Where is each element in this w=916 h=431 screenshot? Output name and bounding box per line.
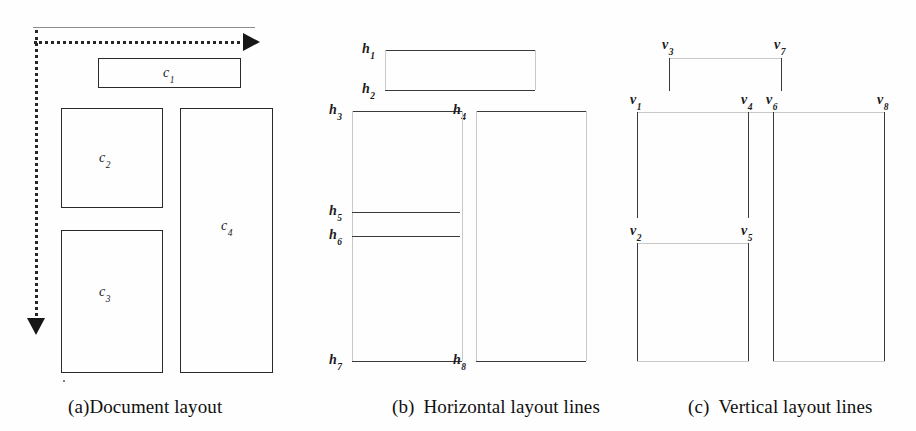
v3-v7-top-guide <box>669 58 781 59</box>
panel-document-layout: c1 c2 c3 c4 <box>0 0 300 431</box>
figure-root: c1 c2 c3 c4 h1 h2 <box>0 0 916 431</box>
caption-c-tag: (c) <box>688 396 709 417</box>
v-line-2 <box>637 243 638 361</box>
caption-b-text: Horizontal layout lines <box>423 396 599 417</box>
h-line-1-label: h1 <box>362 42 375 59</box>
block-c3 <box>61 230 163 373</box>
arrow-top-guide <box>33 27 255 28</box>
v-line-3-label: v3 <box>662 38 673 55</box>
h-line-5-label: h5 <box>329 204 342 221</box>
v-line-1-label: v1 <box>630 93 641 110</box>
v-line-5 <box>748 243 749 361</box>
v6-v8-bottom-guide <box>773 361 885 362</box>
h1-h2-connector-left <box>385 50 386 90</box>
h-line-3 <box>352 111 462 112</box>
block-c2-label: c2 <box>99 151 110 168</box>
v-line-3 <box>669 58 670 91</box>
left-column-edge-right <box>462 111 463 361</box>
block-c2 <box>61 108 163 208</box>
right-column-edge-left <box>476 111 477 361</box>
h-line-2-label: h2 <box>362 82 375 99</box>
v-line-7-label: v7 <box>774 38 785 55</box>
reading-order-arrowhead-right <box>243 33 260 51</box>
h-line-4 <box>476 111 586 112</box>
v-line-2-label: v2 <box>630 224 641 241</box>
v-row-top-guide <box>637 112 885 113</box>
h-line-6 <box>352 236 460 237</box>
block-c1-label: c1 <box>163 66 174 83</box>
caption-panel-c: (c)Vertical layout lines <box>688 396 872 418</box>
v-line-4 <box>748 112 749 218</box>
caption-panel-b: (b)Horizontal layout lines <box>392 396 600 418</box>
v-line-4-label: v4 <box>741 93 752 110</box>
v-line-8 <box>884 112 885 361</box>
h-line-2 <box>385 90 535 91</box>
h-line-8-label: h8 <box>453 353 466 370</box>
h-line-3-label: h3 <box>329 103 342 120</box>
block-c4 <box>180 108 273 373</box>
v2-v5-top-guide <box>637 243 749 244</box>
h-line-7-label: h7 <box>329 353 342 370</box>
panel-horizontal-layout-lines: h1 h2 h3 h4 h5 h6 <box>300 0 612 431</box>
reading-order-arrowhead-down <box>27 318 45 335</box>
v-line-8-label: v8 <box>877 93 888 110</box>
v2-v5-bottom-guide <box>637 361 749 362</box>
right-column-edge-right <box>586 111 587 361</box>
h-line-1 <box>385 50 535 51</box>
panel-vertical-layout-lines: v3 v7 v1 v4 v6 v8 <box>612 0 916 431</box>
reading-order-arrow-vertical <box>35 30 38 322</box>
caption-c-text: Vertical layout lines <box>718 396 872 417</box>
h-line-7 <box>352 361 462 362</box>
caption-a-text: Document layout <box>89 396 222 417</box>
v-line-1 <box>637 112 638 218</box>
reading-order-arrow-horizontal <box>34 41 246 44</box>
caption-b-tag: (b) <box>392 396 414 417</box>
block-c4-label: c4 <box>221 219 232 236</box>
caption-panel-a: (a)Document layout <box>68 396 222 418</box>
block-c3-label: c3 <box>99 285 110 302</box>
caption-a-tag: (a) <box>68 396 89 417</box>
v-line-6-label: v6 <box>766 93 777 110</box>
v-line-7 <box>781 58 782 91</box>
h1-h2-connector-right <box>535 50 536 90</box>
h-line-5 <box>352 212 460 213</box>
h-line-8 <box>476 361 586 362</box>
h-line-6-label: h6 <box>329 228 342 245</box>
scan-speck <box>63 380 65 382</box>
v-line-5-label: v5 <box>741 224 752 241</box>
h-line-4-label: h4 <box>453 103 466 120</box>
v-line-6 <box>773 112 774 361</box>
